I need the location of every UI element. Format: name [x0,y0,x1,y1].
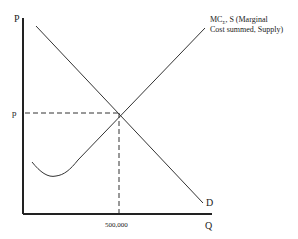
supply-demand-diagram: P Q D MCΣ, S (Marginal Cost summed, Supp… [0,0,298,239]
quantity-label: 500,000 [105,221,128,229]
x-axis-label: Q [205,220,213,231]
price-label: p [12,108,17,118]
supply-label-line2: Cost summed, Supply) [210,25,283,34]
supply-label-line1: MCΣ, S (Marginal [210,15,268,25]
demand-label: D [206,197,213,208]
y-axis-label: P [14,13,20,24]
